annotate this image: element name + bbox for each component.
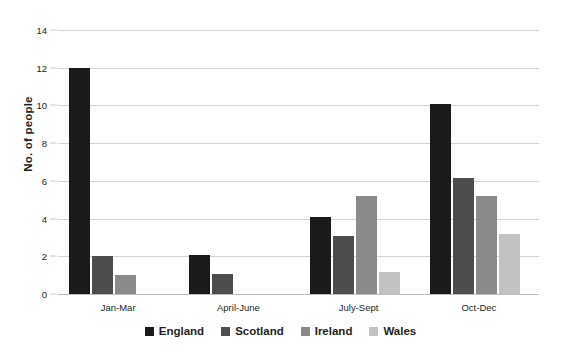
y-tick-mark-14 (50, 30, 57, 31)
bar-scotland-july-sept[interactable] (333, 236, 354, 294)
bar-groups: Jan-MarApril-JuneJuly-SeptOct-Dec (58, 30, 539, 294)
y-tick-mark-6 (50, 180, 57, 181)
y-tick-label-8: 8 (42, 138, 47, 149)
bar-wales-july-sept[interactable] (379, 272, 400, 294)
y-tick-label-14: 14 (36, 25, 47, 36)
y-tick-label-10: 10 (36, 100, 47, 111)
y-axis-title: No. of people (22, 64, 34, 204)
legend-label-scotland: Scotland (235, 325, 284, 337)
y-tick-mark-2 (50, 256, 57, 257)
x-tick-label-april-june: April-June (178, 302, 298, 313)
x-tick-label-jan-mar: Jan-Mar (58, 302, 178, 313)
y-tick-mark-8 (50, 143, 57, 144)
legend-item-wales[interactable]: Wales (369, 325, 416, 337)
legend-swatch-wales (369, 327, 378, 336)
bar-chart: No. of people 02468101214 Jan-MarApril-J… (0, 0, 561, 362)
x-tick-label-oct-dec: Oct-Dec (419, 302, 539, 313)
y-tick-label-12: 12 (36, 62, 47, 73)
bars (419, 30, 539, 294)
plot-area: 02468101214 Jan-MarApril-JuneJuly-SeptOc… (58, 30, 539, 294)
chart-legend: EnglandScotlandIrelandWales (0, 325, 561, 337)
legend-swatch-scotland (221, 327, 230, 336)
legend-label-ireland: Ireland (315, 325, 353, 337)
gridline-0 (58, 294, 539, 295)
bar-england-april-june[interactable] (189, 255, 210, 294)
legend-item-ireland[interactable]: Ireland (301, 325, 353, 337)
bar-scotland-oct-dec[interactable] (453, 178, 474, 294)
bars (299, 30, 419, 294)
y-tick-mark-10 (50, 105, 57, 106)
bars (178, 30, 298, 294)
y-tick-mark-12 (50, 67, 57, 68)
bar-group-april-june: April-June (178, 30, 298, 294)
y-tick-label-6: 6 (42, 175, 47, 186)
legend-swatch-ireland (301, 327, 310, 336)
bar-england-july-sept[interactable] (310, 217, 331, 294)
bars (58, 30, 178, 294)
bar-england-jan-mar[interactable] (69, 68, 90, 294)
bar-wales-oct-dec[interactable] (499, 234, 520, 294)
bar-group-oct-dec: Oct-Dec (419, 30, 539, 294)
x-tick-label-july-sept: July-Sept (299, 302, 419, 313)
bar-england-oct-dec[interactable] (430, 104, 451, 294)
bar-ireland-jan-mar[interactable] (115, 275, 136, 294)
legend-item-england[interactable]: England (145, 325, 204, 337)
y-tick-label-4: 4 (42, 213, 47, 224)
legend-label-wales: Wales (383, 325, 416, 337)
bar-ireland-oct-dec[interactable] (476, 196, 497, 294)
bar-ireland-july-sept[interactable] (356, 196, 377, 294)
bar-scotland-jan-mar[interactable] (92, 256, 113, 294)
bar-scotland-april-june[interactable] (212, 274, 233, 294)
y-tick-label-2: 2 (42, 251, 47, 262)
legend-swatch-england (145, 327, 154, 336)
legend-label-england: England (159, 325, 204, 337)
y-tick-mark-0 (50, 294, 57, 295)
bar-group-jan-mar: Jan-Mar (58, 30, 178, 294)
bar-group-july-sept: July-Sept (299, 30, 419, 294)
legend-item-scotland[interactable]: Scotland (221, 325, 284, 337)
y-tick-label-0: 0 (42, 289, 47, 300)
y-tick-mark-4 (50, 218, 57, 219)
